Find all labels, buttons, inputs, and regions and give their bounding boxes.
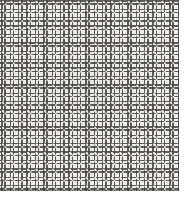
bottom-paper-margin	[0, 191, 187, 206]
mesh-texture-region	[0, 0, 179, 191]
texture-screenshot	[0, 0, 187, 206]
right-paper-margin	[179, 0, 187, 206]
mesh-junction-gaps-secondary	[0, 0, 179, 191]
